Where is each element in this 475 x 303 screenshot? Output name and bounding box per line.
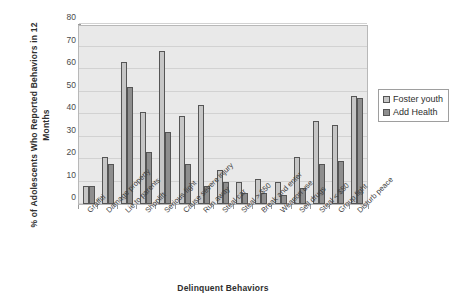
bar-group [79,26,98,204]
x-axis-labels: GraffitiDamage propertyLie to parentsSho… [78,209,368,275]
y-tick-label: 0 [56,193,76,201]
bar-group [348,26,367,204]
y-axis-title-line-1: % of Adolescents Who Reported Behaviors … [28,22,40,227]
x-tick-label: Run away [202,209,208,215]
y-axis-ticks: 01020304050607080 [52,25,76,205]
y-tick-label: 60 [56,58,76,66]
x-tick-label: Serious fight [163,209,169,215]
bar-chart: % of Adolescents Who Reported Behaviors … [0,0,475,303]
bar [165,132,171,204]
x-tick-label: Lie to parents [124,209,130,215]
bar-group [233,26,252,204]
y-tick-label: 40 [56,103,76,111]
x-tick-label: Disturb peace [356,209,362,215]
bar-group [156,26,175,204]
x-tick-label: Damage property [105,209,111,215]
x-tick-label: Steal > $50 [240,209,246,215]
y-tick-label: 20 [56,148,76,156]
bar-group [329,26,348,204]
legend-label: Add Health [393,107,438,117]
gridline [79,23,367,24]
y-axis-title-line-2: Months [40,109,52,140]
bar-group [271,26,290,204]
x-tick-label: Group fight [337,209,343,215]
x-tick-label: Break and enter [260,209,266,215]
bar-group [309,26,328,204]
legend-swatch-icon [383,96,390,103]
x-axis-title: Delinquent Behaviors [78,283,368,293]
y-tick-label: 70 [56,36,76,44]
y-tick-label: 80 [56,13,76,21]
x-tick-label: Shoplift [144,209,150,215]
x-tick-label: Weapon use [279,209,285,215]
x-tick-label: Graffiti [86,209,92,215]
x-tick-label: Cause severe injury [182,209,188,215]
y-tick-label: 30 [56,126,76,134]
legend-label: Foster youth [393,94,443,104]
legend-swatch-icon [383,109,390,116]
legend-item: Foster youth [383,94,443,104]
y-tick-label: 50 [56,81,76,89]
legend-item: Add Health [383,107,443,117]
x-tick-label: Steal < $50 [318,209,324,215]
y-tick-label: 10 [56,171,76,179]
chart-legend: Foster youthAdd Health [378,89,449,122]
x-tick-label: Sell drugs [298,209,304,215]
bar-group [98,26,117,204]
x-tick-label: Steal car [221,209,227,215]
bar-group [252,26,271,204]
